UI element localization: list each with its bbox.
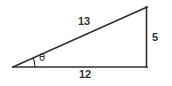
adjacent-side-label: 12 xyxy=(79,69,91,80)
hypotenuse-label: 13 xyxy=(78,16,90,27)
theta-angle-label: θ xyxy=(39,53,45,63)
opposite-side-label: 5 xyxy=(152,32,158,43)
triangle-figure: 13 5 12 θ xyxy=(0,0,172,86)
angle-arc xyxy=(33,57,35,67)
